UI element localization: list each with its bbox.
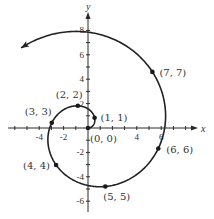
x-axis-arrow-icon	[191, 126, 198, 131]
y-tick-label: -2	[77, 147, 85, 157]
point-marker	[49, 121, 54, 126]
point-label: (5, 5)	[103, 191, 130, 202]
x-axis-label: x	[200, 123, 206, 134]
point-marker	[103, 184, 108, 189]
y-tick-label: -6	[77, 196, 85, 206]
point-label: (4, 4)	[23, 160, 50, 171]
point-marker	[150, 70, 155, 75]
y-axis-arrow-icon	[86, 12, 91, 19]
y-tick-label: 4	[80, 74, 85, 84]
point-label: (2, 2)	[56, 89, 83, 100]
x-tick-label: 4	[135, 132, 140, 142]
y-tick-label: 6	[80, 50, 85, 60]
y-axis-label: y	[85, 1, 91, 12]
x-tick-label: -4	[35, 132, 43, 142]
spiral-chart: -4-2468642-2-4-6 (0, 0)(1, 1)(2, 2)(3, 3…	[0, 0, 214, 219]
y-tick-label: 8	[80, 25, 85, 35]
point-marker	[76, 104, 81, 109]
point-marker	[54, 163, 59, 168]
point-marker	[92, 115, 97, 120]
point-label: (1, 1)	[101, 112, 128, 123]
point-marker	[86, 126, 91, 131]
point-label: (7, 7)	[159, 67, 186, 78]
point-marker	[156, 146, 161, 151]
point-label: (6, 6)	[166, 144, 193, 155]
point-label: (3, 3)	[25, 106, 52, 117]
x-tick-label: -2	[60, 132, 68, 142]
y-tick-label: -4	[77, 172, 85, 182]
point-label: (0, 0)	[90, 133, 117, 144]
